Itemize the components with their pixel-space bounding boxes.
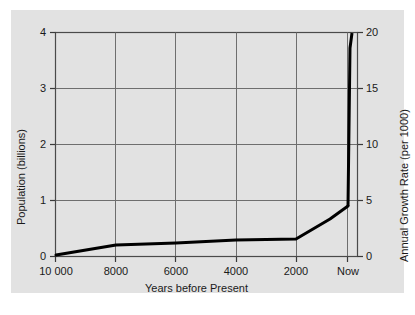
y-left-tick-label-0: 0 — [16, 250, 46, 262]
y-right-tick-label-20: 20 — [366, 26, 396, 38]
x-tick-label-4000: 4000 — [206, 265, 266, 277]
growth-rate-spike — [348, 33, 352, 206]
figure-container: 4 3 2 1 0 20 15 10 5 0 10 000 8000 6000 … — [0, 0, 415, 315]
x-tick-label-8000: 8000 — [86, 265, 146, 277]
y-left-tick-label-4: 4 — [16, 26, 46, 38]
x-tick-label-10000: 10 000 — [26, 265, 86, 277]
x-tick-label-now: Now — [318, 265, 378, 277]
y-axis-left-title: Population (billions) — [15, 129, 27, 225]
y-right-tick-label-15: 15 — [366, 82, 396, 94]
y-right-tick-label-0: 0 — [366, 250, 396, 262]
x-tick-label-6000: 6000 — [146, 265, 206, 277]
y-right-tick-label-5: 5 — [366, 194, 396, 206]
y-right-tick-label-10: 10 — [366, 138, 396, 150]
x-tick-label-2000: 2000 — [266, 265, 326, 277]
y-left-tick-label-3: 3 — [16, 82, 46, 94]
population-curve — [56, 206, 348, 255]
y-axis-right-title: Annual Growth Rate (per 1000) — [398, 109, 410, 262]
x-axis-title: Years before Present — [145, 282, 248, 294]
